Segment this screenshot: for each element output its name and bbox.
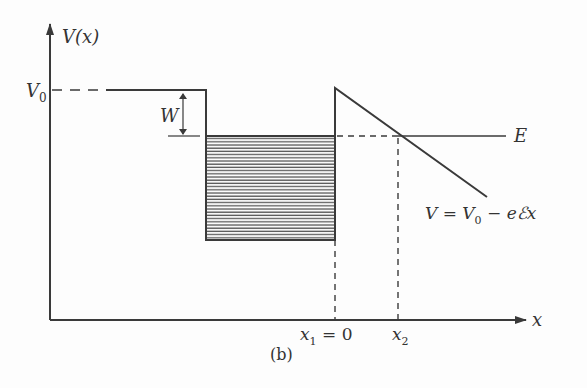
x1-label: x1 = 0: [300, 324, 352, 348]
x2-label: x2: [392, 324, 409, 348]
barrier-left: [106, 90, 206, 136]
potential-diagram: V(x) x V0 W E V = V0 − eℰx x1 = 0 x2 (b): [0, 0, 587, 388]
y-axis-label: V(x): [62, 26, 99, 47]
potential-formula: V = V0 − eℰx: [425, 203, 537, 227]
energy-label: E: [513, 125, 527, 146]
filled-well: [206, 136, 335, 240]
w-label: W: [160, 105, 180, 126]
v0-label: V0: [26, 80, 47, 105]
x-axis-label: x: [532, 309, 542, 330]
figure-caption: (b): [270, 345, 293, 364]
